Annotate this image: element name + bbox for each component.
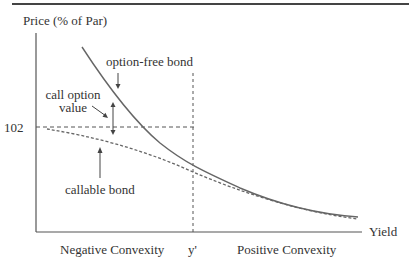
- axes: [36, 33, 362, 232]
- callable-bond-arrow-icon: [98, 147, 103, 178]
- y-axis-label: Price (% of Par): [23, 14, 107, 27]
- convexity-diagram: [0, 0, 409, 262]
- x-axis-label: Yield: [369, 225, 397, 238]
- yield-marker-label: y': [188, 243, 197, 256]
- positive-convexity-label: Positive Convexity: [237, 243, 336, 256]
- callable-bond-curve: [47, 129, 358, 219]
- price-level-label: 102: [4, 121, 24, 134]
- option-free-arrow-icon: [116, 73, 121, 89]
- callable-bond-label: callable bond: [65, 183, 135, 196]
- option-free-bond-label: option-free bond: [106, 55, 193, 68]
- call-option-value-double-arrow-icon: [111, 102, 116, 135]
- negative-convexity-label: Negative Convexity: [60, 243, 164, 256]
- call-option-value-label-line2: value: [44, 101, 102, 114]
